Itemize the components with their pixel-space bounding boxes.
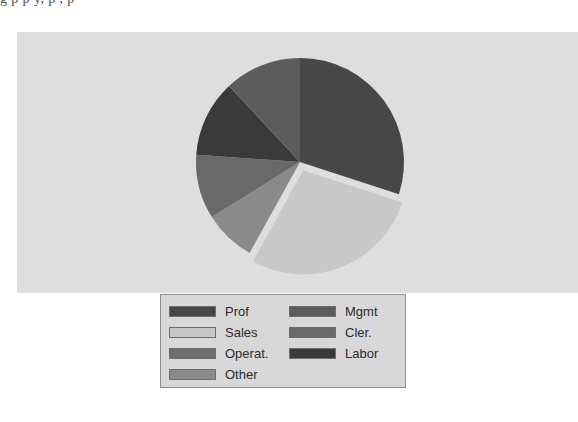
legend-swatch-cler bbox=[289, 327, 336, 338]
legend-label-mgmt: Mgmt bbox=[345, 305, 378, 318]
chart-legend: Prof Sales Operat. Other Mgmt Cler. Labo… bbox=[160, 294, 406, 388]
legend-item-labor[interactable]: Labor bbox=[289, 343, 378, 364]
legend-item-sales[interactable]: Sales bbox=[169, 322, 268, 343]
legend-swatch-operat bbox=[169, 348, 216, 359]
legend-label-prof: Prof bbox=[225, 305, 249, 318]
legend-item-operat[interactable]: Operat. bbox=[169, 343, 268, 364]
legend-item-other[interactable]: Other bbox=[169, 364, 268, 385]
legend-label-other: Other bbox=[225, 368, 258, 381]
legend-label-labor: Labor bbox=[345, 347, 378, 360]
clipped-text-line: g p p y, p , p bbox=[0, 0, 578, 7]
legend-item-mgmt[interactable]: Mgmt bbox=[289, 301, 378, 322]
pie-slice-prof[interactable] bbox=[300, 58, 404, 194]
legend-swatch-sales bbox=[169, 327, 216, 338]
legend-swatch-mgmt bbox=[289, 306, 336, 317]
legend-swatch-prof bbox=[169, 306, 216, 317]
legend-item-prof[interactable]: Prof bbox=[169, 301, 268, 322]
legend-column-right: Mgmt Cler. Labor bbox=[289, 301, 378, 364]
pie-chart bbox=[17, 32, 578, 293]
chart-panel bbox=[17, 32, 578, 293]
legend-item-cler[interactable]: Cler. bbox=[289, 322, 378, 343]
legend-swatch-labor bbox=[289, 348, 336, 359]
legend-column-left: Prof Sales Operat. Other bbox=[169, 301, 268, 385]
legend-label-sales: Sales bbox=[225, 326, 258, 339]
legend-label-cler: Cler. bbox=[345, 326, 372, 339]
legend-swatch-other bbox=[169, 369, 216, 380]
pie-chart-svg bbox=[17, 32, 578, 293]
legend-label-operat: Operat. bbox=[225, 347, 268, 360]
